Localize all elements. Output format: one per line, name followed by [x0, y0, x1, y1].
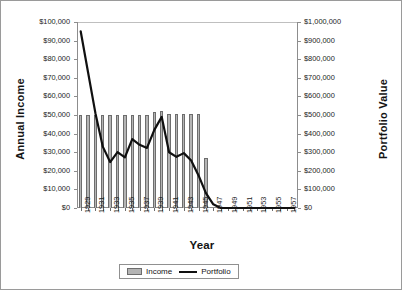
- y-tick-label-left: $60,000: [43, 92, 70, 99]
- y-tick-right: [298, 152, 301, 153]
- x-tick-label: 1957: [290, 197, 297, 213]
- y-tick-label-left: $100,000: [39, 18, 70, 25]
- y-axis-title-right: Portfolio Value: [377, 59, 389, 179]
- x-tick-label: 1929: [84, 197, 91, 213]
- x-tick-label: 1949: [231, 197, 238, 213]
- y-tick-right: [298, 59, 301, 60]
- x-tick: [110, 208, 111, 211]
- y-tick-label-right: $900,000: [304, 37, 335, 44]
- x-axis-title: Year: [1, 239, 402, 251]
- y-tick-right: [298, 22, 301, 23]
- chart-legend: Income Portfolio: [119, 264, 239, 279]
- y-tick-label-right: $800,000: [304, 55, 335, 62]
- y-tick-label-right: $1,000,000: [304, 18, 341, 25]
- y-tick-label-left: $40,000: [43, 130, 70, 137]
- y-tick-label-left: $0: [62, 204, 70, 211]
- y-tick-label-left: $50,000: [43, 111, 70, 118]
- x-tick-label: 1947: [216, 197, 223, 213]
- y-tick-label-left: $80,000: [43, 55, 70, 62]
- y-tick-right: [298, 78, 301, 79]
- x-tick: [169, 208, 170, 211]
- y-tick-right: [298, 208, 301, 209]
- legend-label-income: Income: [146, 267, 172, 276]
- x-tick-label: 1935: [128, 197, 135, 213]
- y-tick-label-left: $70,000: [43, 74, 70, 81]
- y-tick-label-right: $0: [304, 204, 312, 211]
- y-tick-left: [74, 208, 77, 209]
- y-tick-label-right: $500,000: [304, 111, 335, 118]
- plot-area: [77, 22, 298, 208]
- legend-item-portfolio: Portfolio: [179, 267, 230, 276]
- x-tick: [140, 208, 141, 211]
- y-tick-label-left: $10,000: [43, 185, 70, 192]
- x-tick-label: 1945: [202, 197, 209, 213]
- x-tick: [199, 208, 200, 211]
- y-tick-right: [298, 171, 301, 172]
- y-tick-right: [298, 41, 301, 42]
- y-tick-right: [298, 134, 301, 135]
- line-series-portfolio: [77, 22, 298, 208]
- x-tick: [125, 208, 126, 211]
- y-axis-title-left: Annual Income: [14, 59, 26, 179]
- x-tick-label: 1943: [187, 197, 194, 213]
- y-tick-right: [298, 96, 301, 97]
- y-tick-right: [298, 115, 301, 116]
- bar-swatch-icon: [127, 268, 142, 275]
- x-tick-label: 1953: [260, 197, 267, 213]
- chart-figure: Annual Income Portfolio Value Year $0$10…: [0, 0, 402, 290]
- y-tick-label-right: $700,000: [304, 74, 335, 81]
- y-tick-label-right: $100,000: [304, 185, 335, 192]
- y-tick-label-left: $90,000: [43, 37, 70, 44]
- legend-item-income: Income: [127, 267, 172, 276]
- x-tick-label: 1931: [98, 197, 105, 213]
- y-tick-label-left: $30,000: [43, 148, 70, 155]
- x-tick-label: 1933: [113, 197, 120, 213]
- line-swatch-icon: [179, 271, 197, 273]
- x-tick-label: 1951: [246, 197, 253, 213]
- y-tick-label-right: $400,000: [304, 130, 335, 137]
- x-tick-label: 1939: [157, 197, 164, 213]
- y-tick-label-left: $20,000: [43, 167, 70, 174]
- y-tick-right: [298, 189, 301, 190]
- legend-label-portfolio: Portfolio: [201, 267, 230, 276]
- y-tick-label-right: $200,000: [304, 167, 335, 174]
- x-tick-label: 1937: [143, 197, 150, 213]
- y-tick-label-right: $300,000: [304, 148, 335, 155]
- y-tick-label-right: $600,000: [304, 92, 335, 99]
- x-tick-label: 1955: [275, 197, 282, 213]
- x-tick: [184, 208, 185, 211]
- x-tick: [81, 208, 82, 211]
- x-tick-label: 1941: [172, 197, 179, 213]
